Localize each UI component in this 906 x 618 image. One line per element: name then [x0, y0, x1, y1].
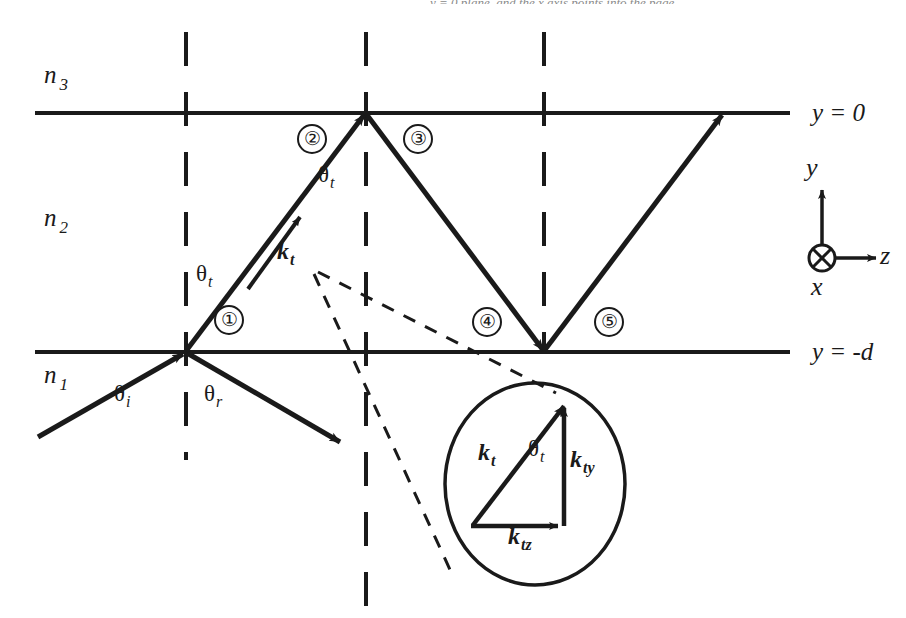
angle-label-theta-r: θr [204, 382, 222, 410]
wavevector-label-kt-inset-base: k [478, 439, 490, 465]
inset-circle [445, 383, 625, 585]
wavevector-label-ktz-base: k [508, 523, 520, 549]
wavevector-label-kt-main: kt [277, 239, 294, 268]
boundary-label-yd: y = -d [812, 339, 873, 364]
medium-label-n3: n3 [44, 62, 68, 93]
angle-label-theta-r-base: θ [204, 381, 215, 406]
medium-label-n1: n1 [44, 362, 68, 393]
ray-number-4: ④ [472, 307, 502, 337]
angle-label-theta-t-inset: θt [528, 437, 544, 465]
angle-label-theta-t-upper-base: θ [318, 162, 329, 187]
wavevector-label-kty-sub: ty [582, 459, 595, 476]
wavevector-label-ktz-sub: tz [520, 536, 532, 553]
inset-leader-upper [318, 272, 556, 393]
boundary-label-y0: y = 0 [812, 100, 865, 125]
angle-label-theta-t-inset-base: θ [528, 436, 539, 461]
ray-segment-1 [186, 115, 364, 351]
angle-label-theta-i: θi [114, 382, 130, 410]
wavevector-label-kty-base: k [570, 446, 582, 472]
medium-label-n2: n2 [44, 205, 68, 236]
optics-layer-diagram: y = 0 plane, and the x axis points into … [0, 0, 906, 618]
medium-label-n2-base: n [44, 204, 57, 231]
medium-label-n3-base: n [44, 61, 57, 88]
inset-leader-lower [314, 274, 452, 574]
ray-segment-5 [544, 115, 722, 351]
axis-label-z: z [880, 243, 890, 269]
angle-label-theta-t-upper: θt [318, 163, 334, 191]
wavevector-label-kt-inset-sub: t [490, 452, 495, 469]
wavevector-label-kt-main-sub: t [289, 251, 294, 268]
angle-label-theta-r-sub: r [215, 393, 222, 410]
ray-number-3: ③ [403, 124, 433, 154]
axis-label-x: x [811, 274, 823, 300]
medium-label-n1-base: n [44, 361, 57, 388]
medium-label-n3-sub: 3 [57, 75, 69, 94]
angle-label-theta-t-inset-sub: t [539, 448, 544, 465]
axis-label-y: y [806, 155, 818, 181]
angle-label-theta-t-lower: θt [196, 262, 212, 290]
medium-label-n2-sub: 2 [57, 218, 69, 237]
ray-number-5: ⑤ [594, 307, 624, 337]
angle-label-theta-i-sub: i [125, 393, 130, 410]
ray-segment-3 [367, 115, 543, 350]
angle-label-theta-i-base: θ [114, 381, 125, 406]
diagram-canvas [0, 0, 906, 618]
medium-label-n1-sub: 1 [57, 375, 69, 394]
wavevector-label-kt-inset: kt [478, 440, 495, 469]
angle-label-theta-t-upper-sub: t [329, 174, 334, 191]
wavevector-label-kt-main-base: k [277, 238, 289, 264]
wavevector-label-ktz: ktz [508, 524, 532, 553]
wavevector-label-kty: kty [570, 447, 595, 476]
angle-label-theta-t-lower-base: θ [196, 261, 207, 286]
ray-number-1: ① [214, 305, 244, 335]
ray-number-2: ② [297, 124, 327, 154]
angle-label-theta-t-lower-sub: t [207, 273, 212, 290]
